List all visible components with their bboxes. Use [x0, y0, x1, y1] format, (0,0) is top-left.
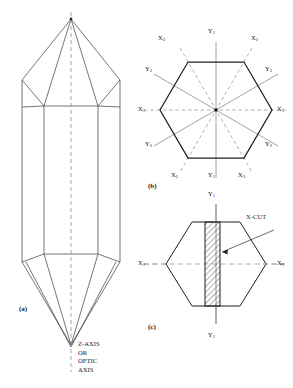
crystal-prism-base-corner-left: [22, 254, 44, 262]
panel-c-hexagon: [144, 204, 288, 324]
crystal-pyramid-edge-left: [22, 19, 71, 80]
crystal-lower-edge-extra-left: [26, 262, 71, 347]
crystal-corner-right: [98, 106, 120, 107]
crystal-pyramid-edge-inner-left: [44, 19, 71, 106]
panel-c-label-y1-bottom: Y1: [208, 331, 215, 338]
crystal-lower-edge-inner-right: [71, 254, 98, 345]
crystal-pyramid-face-lower-right: [98, 80, 120, 106]
panel-a-id: (a): [19, 305, 27, 313]
panel-b-label-x2-topright: X2: [251, 34, 258, 41]
crystal-pyramid-edge-inner-right: [71, 19, 98, 106]
panel-b-label-y3-upperright: Y3: [265, 65, 272, 72]
panel-b-label-x3-topleft: X3: [158, 34, 165, 41]
panel-c-label-xcut: X-CUT: [246, 213, 266, 220]
panel-b-label-x1-left: X1: [138, 105, 145, 112]
panel-b-id: (b): [148, 182, 157, 190]
crystal-pyramid-face-lower-left: [22, 80, 44, 106]
panel-b-center-point: [214, 108, 218, 112]
crystal-apex-point: [70, 18, 73, 21]
panel-b-label-y2-upperleft: Y2: [145, 65, 152, 72]
panel-c-label-x1-right: X1: [277, 259, 284, 266]
crystal-pyramid-edge-right: [71, 19, 120, 80]
panel-c-xcut-slab: [205, 222, 220, 306]
panel-b-label-x2-bottomleft: X2: [171, 171, 178, 178]
panel-b-label-y1-bottom: Y1: [208, 171, 215, 178]
panel-b-label-y1-top: Y1: [208, 27, 215, 34]
panel-b-label-y3-lowerleft: Y3: [145, 140, 152, 147]
panel-b-label-x3-bottomright: X3: [238, 171, 245, 178]
crystal-lower-edge-extra-right: [71, 262, 116, 347]
panel-b-label-y2-lowerright: Y2: [265, 140, 272, 147]
crystal-corner-left: [22, 106, 44, 107]
panel-c-id: (c): [148, 323, 156, 331]
panel-c-label-x1-left: X1: [138, 259, 145, 266]
crystal-lower-edge-inner-left: [44, 254, 71, 345]
panel-a-axis-caption: Z-AXIS OR OPTIC AXIS: [78, 340, 100, 374]
panel-c-label-y1-top: Y1: [208, 190, 215, 197]
figure-canvas: [0, 0, 293, 388]
panel-b-hexagon: [144, 42, 288, 178]
panel-b-label-x1-right: X1: [277, 105, 284, 112]
crystal-prism-base-corner-right: [98, 254, 120, 262]
